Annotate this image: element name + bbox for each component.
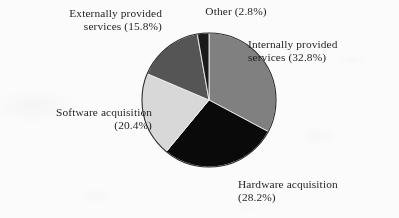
pie-label-hardware-acquisition: Hardware acquisition (28.2%) [238, 178, 394, 205]
pie-label-software-acquisition: Software acquisition (20.4%) [6, 106, 152, 133]
pie-label-internally-provided-services: Internally provided services (32.8%) [248, 38, 394, 65]
pie-label-externally-provided-services: Externally provided services (15.8%) [16, 7, 162, 34]
pie-chart-figure: Externally provided services (15.8%) Oth… [0, 0, 399, 218]
pie-label-other: Other (2.8%) [178, 5, 294, 18]
